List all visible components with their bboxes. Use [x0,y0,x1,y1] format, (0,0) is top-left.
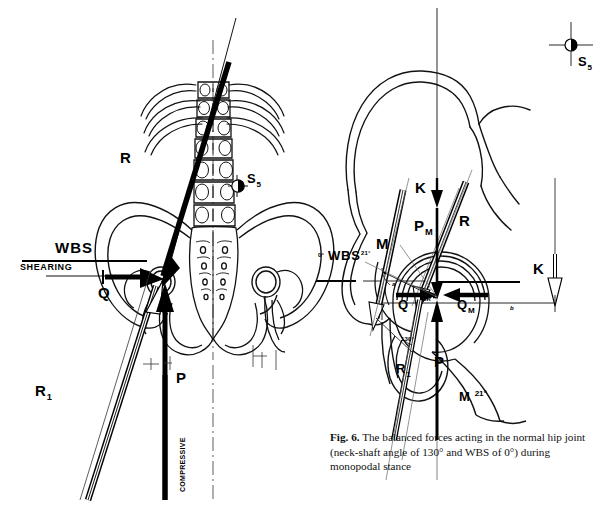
left-label-p: P [176,370,187,385]
right-abductor-vector [369,178,409,336]
right-label-m-bottom: M21° [459,390,487,403]
right-label-q: Q [398,298,409,311]
right-lateral-body-weight-vector [548,178,562,306]
left-label-s5: S5 [247,172,261,189]
left-label-wbs: WBS [55,240,93,255]
right-label-wbs-left-angle: 0° [318,252,324,258]
right-label-lever-arm-a: a [392,281,396,287]
figure-caption-text: The balanced forces acting in the normal… [330,431,585,472]
right-label-pm: PM [414,218,433,237]
right-label-r1: R1 [396,362,411,379]
right-label-qm: QM [457,298,475,315]
right-label-lever-arm-b: b [510,305,514,311]
left-label-q: Q [98,285,111,300]
right-label-neck-shaft-angle: 130° [401,336,414,342]
left-s5-marker [228,175,248,197]
left-label-shearing: SHEARING [20,263,72,272]
right-label-wbs: WBS [328,249,361,262]
right-label-p: P [434,354,445,369]
right-label-resultant: R [459,213,471,228]
figure-caption: Fig. 6. The balanced forces acting in th… [330,430,602,474]
right-label-wbs-right-angle: 21° [361,250,371,256]
figure-number: Fig. 6. [330,431,360,443]
left-reaction-vector [80,272,163,500]
right-label-s5: S5 [578,55,592,72]
left-panel-artwork [22,18,334,500]
left-label-compressive-axis: COMPRESSIVE [179,437,186,492]
right-label-m: M [376,236,390,251]
figure-6-container: R S5 WBS SHEARING Q R1 P COMPRESSIVE S5 … [0,0,611,510]
right-label-k-top: K [415,180,427,195]
right-label-k-lateral: K [533,261,545,276]
left-label-resultant: R [120,150,132,165]
right-panel-artwork [316,8,593,480]
right-label-cr: CR [422,296,431,302]
left-label-r1: R1 [35,383,52,402]
